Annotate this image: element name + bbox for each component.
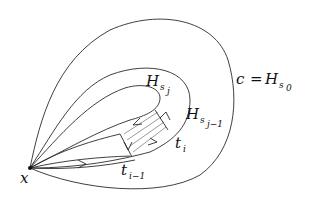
homotopy-diagram: x c = H s 0 H s j H s j−1 t i t i−1 [0, 0, 329, 198]
svg-text:s: s [279, 80, 284, 90]
ray-1 [30, 134, 120, 168]
label-outer: c = H s 0 [236, 70, 292, 93]
svg-text:j−1: j−1 [205, 119, 223, 129]
svg-text:j: j [165, 86, 170, 96]
outer-curve [30, 19, 234, 189]
ray-2 [30, 156, 130, 168]
svg-text:s: s [200, 115, 205, 125]
svg-text:i: i [183, 144, 186, 154]
svg-text:s: s [160, 82, 165, 92]
label-middle: H s j−1 [185, 105, 223, 129]
ray-3 [30, 160, 135, 169]
svg-text:H: H [185, 105, 200, 123]
svg-text:=: = [250, 70, 263, 88]
label-t-i-minus-1: t i−1 [121, 161, 145, 181]
arrow-up-icon [160, 112, 170, 120]
svg-text:i−1: i−1 [129, 171, 145, 181]
svg-text:c: c [236, 70, 245, 88]
svg-text:t: t [175, 134, 182, 152]
inner-curve [30, 86, 160, 168]
middle-curve [30, 68, 190, 168]
base-point-dot [28, 166, 32, 170]
svg-text:0: 0 [286, 83, 292, 93]
svg-text:H: H [264, 70, 279, 88]
svg-text:t: t [121, 161, 128, 179]
arrow-right-icon [148, 138, 157, 145]
label-inner: H s j [145, 72, 170, 96]
label-x: x [20, 169, 29, 187]
svg-text:H: H [145, 72, 160, 90]
label-t-i: t i [175, 134, 186, 154]
